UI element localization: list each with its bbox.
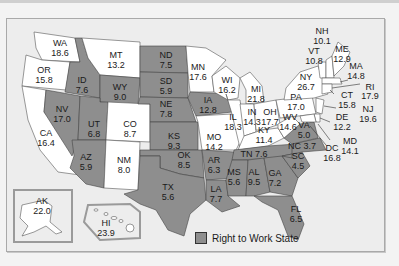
right-to-work-swatch	[195, 232, 207, 244]
svg-text:17.0: 17.0	[53, 114, 71, 124]
svg-text:IL: IL	[229, 112, 237, 122]
svg-text:NC 3.7: NC 3.7	[288, 141, 316, 151]
svg-text:WI: WI	[222, 75, 233, 85]
svg-text:AK: AK	[36, 196, 48, 206]
svg-text:5.9: 5.9	[160, 86, 173, 96]
svg-text:10.8: 10.8	[305, 56, 323, 66]
svg-text:23.9: 23.9	[97, 228, 115, 238]
svg-text:IN: IN	[248, 107, 257, 117]
svg-text:HI: HI	[102, 218, 111, 228]
svg-text:ME: ME	[335, 44, 349, 54]
svg-text:18.6: 18.6	[51, 48, 69, 58]
svg-text:8.0: 8.0	[118, 165, 131, 175]
svg-text:7.6: 7.6	[76, 85, 89, 95]
svg-text:TN 7.6: TN 7.6	[240, 149, 267, 159]
svg-text:9.0: 9.0	[114, 92, 127, 102]
svg-text:17.9: 17.9	[361, 91, 379, 101]
svg-text:13.2: 13.2	[107, 60, 125, 70]
svg-text:9.5: 9.5	[248, 177, 261, 187]
svg-text:17.6: 17.6	[189, 72, 207, 82]
svg-text:5.9: 5.9	[80, 162, 93, 172]
svg-text:WA: WA	[53, 38, 67, 48]
svg-text:19.6: 19.6	[359, 114, 377, 124]
svg-text:WV: WV	[283, 112, 298, 122]
svg-text:NH: NH	[316, 26, 329, 36]
svg-text:VT: VT	[308, 46, 320, 56]
svg-text:MO: MO	[207, 132, 222, 142]
svg-text:10.1: 10.1	[313, 36, 331, 46]
svg-text:5.6: 5.6	[162, 192, 175, 202]
svg-text:MS: MS	[227, 167, 241, 177]
svg-text:14.8: 14.8	[347, 71, 365, 81]
svg-text:CT: CT	[341, 90, 353, 100]
svg-text:8.7: 8.7	[124, 129, 137, 139]
svg-text:ID: ID	[78, 75, 88, 85]
svg-text:NM: NM	[117, 155, 131, 165]
svg-text:SC: SC	[292, 151, 305, 161]
svg-text:12.2: 12.2	[333, 122, 351, 132]
svg-text:WY: WY	[113, 82, 128, 92]
svg-text:CA: CA	[40, 128, 53, 138]
svg-text:NJ: NJ	[363, 104, 374, 114]
svg-text:5.6: 5.6	[228, 177, 241, 187]
state-ct	[322, 84, 332, 94]
svg-text:15.8: 15.8	[338, 100, 356, 110]
svg-text:AL: AL	[248, 167, 259, 177]
svg-text:MT: MT	[110, 50, 123, 60]
svg-text:NY: NY	[300, 72, 313, 82]
svg-text:AR: AR	[208, 155, 221, 165]
svg-text:6.3: 6.3	[208, 165, 221, 175]
svg-text:16.2: 16.2	[218, 85, 236, 95]
svg-text:7.7: 7.7	[210, 194, 223, 204]
svg-text:6.5: 6.5	[290, 214, 303, 224]
svg-text:DC: DC	[326, 143, 339, 153]
svg-text:15.8: 15.8	[35, 75, 53, 85]
svg-text:DE: DE	[336, 112, 349, 122]
svg-text:21.8: 21.8	[247, 94, 265, 104]
svg-text:KS: KS	[168, 131, 180, 141]
svg-text:UT: UT	[88, 119, 100, 129]
svg-text:17.0: 17.0	[287, 102, 305, 112]
state-nj	[316, 98, 324, 114]
svg-text:16.4: 16.4	[37, 138, 55, 148]
svg-text:MD: MD	[343, 136, 357, 146]
svg-text:GA: GA	[268, 168, 281, 178]
svg-text:MN: MN	[191, 62, 205, 72]
svg-text:NE: NE	[160, 99, 173, 109]
map-legend: Right to Work State	[195, 232, 299, 244]
svg-text:MA: MA	[349, 61, 363, 71]
svg-text:7.8: 7.8	[160, 109, 173, 119]
svg-text:14.2: 14.2	[205, 142, 223, 152]
svg-text:14.6: 14.6	[279, 122, 297, 132]
svg-text:4.5: 4.5	[292, 161, 305, 171]
svg-text:AZ: AZ	[80, 152, 92, 162]
svg-text:VA: VA	[298, 120, 309, 130]
svg-text:KY: KY	[258, 125, 270, 135]
svg-text:7.5: 7.5	[160, 60, 173, 70]
svg-text:26.7: 26.7	[297, 82, 315, 92]
svg-text:12.9: 12.9	[333, 54, 351, 64]
svg-text:22.0: 22.0	[33, 206, 51, 216]
svg-text:OH: OH	[263, 107, 277, 117]
svg-text:5.0: 5.0	[298, 130, 311, 140]
svg-text:16.8: 16.8	[323, 153, 341, 163]
state-ma	[322, 78, 342, 84]
svg-text:7.2: 7.2	[269, 178, 282, 188]
svg-text:6.8: 6.8	[88, 129, 101, 139]
svg-text:12.8: 12.8	[199, 105, 217, 115]
us-map: WA18.6 OR15.8 CA16.4 ID7.6 NV17.0 MT13.2…	[0, 0, 399, 266]
svg-text:MI: MI	[251, 84, 261, 94]
svg-text:11.4: 11.4	[256, 135, 273, 145]
svg-text:OK: OK	[177, 150, 190, 160]
svg-text:14.1: 14.1	[341, 146, 359, 156]
svg-text:IA: IA	[204, 95, 213, 105]
svg-text:ND: ND	[160, 50, 173, 60]
svg-text:18.3: 18.3	[224, 122, 242, 132]
svg-text:SD: SD	[160, 76, 173, 86]
legend-label: Right to Work State	[212, 233, 299, 244]
svg-text:TX: TX	[162, 182, 174, 192]
svg-text:NV: NV	[56, 104, 69, 114]
svg-text:8.5: 8.5	[178, 160, 191, 170]
svg-text:OR: OR	[37, 65, 51, 75]
svg-text:PA: PA	[290, 92, 301, 102]
